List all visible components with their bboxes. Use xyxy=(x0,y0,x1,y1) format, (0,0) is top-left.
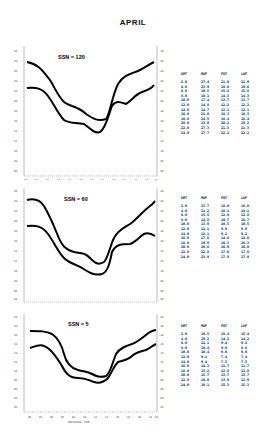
svg-text:-20: -20 xyxy=(159,325,164,328)
svg-text:06: 06 xyxy=(57,179,61,180)
x-axis-label: UNIVERSAL TIME xyxy=(68,421,90,424)
svg-text:08: 08 xyxy=(68,179,72,180)
svg-text:-12: -12 xyxy=(159,260,164,263)
svg-text:-10: -10 xyxy=(159,150,164,153)
svg-text:-20: -20 xyxy=(159,100,164,103)
ssn-label: SSN = 60 xyxy=(64,196,88,202)
svg-text:22: 22 xyxy=(145,179,149,180)
svg-text:18: 18 xyxy=(127,416,131,419)
svg-text:04: 04 xyxy=(46,179,50,180)
table-row: 24.023.917.917.9 xyxy=(181,255,261,260)
svg-text:14-: 14- xyxy=(14,130,19,133)
chart-ssn-60: 26-24-22-20- 18-16-14-12- 10-08-06-04- -… xyxy=(0,186,170,308)
svg-text:-26: -26 xyxy=(159,70,164,73)
svg-text:-22: -22 xyxy=(159,316,164,319)
svg-text:02-: 02- xyxy=(14,406,19,409)
svg-text:-08: -08 xyxy=(159,280,164,283)
svg-text:-24: -24 xyxy=(159,200,164,203)
svg-text:-06: -06 xyxy=(159,388,164,391)
svg-text:16-: 16- xyxy=(14,343,19,346)
svg-text:18-: 18- xyxy=(14,110,19,113)
svg-text:06-: 06- xyxy=(14,388,19,391)
svg-text:-16: -16 xyxy=(159,120,164,123)
svg-text:02: 02 xyxy=(35,179,39,180)
chart-ssn-120: 30-28-26-24- 22-20-18-16- 14-12-10-08-06… xyxy=(0,44,170,180)
svg-text:-16: -16 xyxy=(159,240,164,243)
svg-text:-18: -18 xyxy=(159,334,164,337)
table-header: GMTMUFFOTLUF xyxy=(181,196,261,201)
svg-text:26-: 26- xyxy=(14,70,19,73)
svg-text:-04: -04 xyxy=(159,298,164,301)
svg-text:16: 16 xyxy=(112,179,116,180)
svg-text:06-: 06- xyxy=(14,170,19,173)
svg-text:18: 18 xyxy=(123,179,127,180)
svg-text:14: 14 xyxy=(105,416,109,419)
svg-text:-08: -08 xyxy=(159,379,164,382)
svg-text:08-: 08- xyxy=(14,280,19,283)
svg-text:22-: 22- xyxy=(14,210,19,213)
svg-text:-28: -28 xyxy=(159,60,164,63)
ssn-label: SSN = 120 xyxy=(58,54,85,60)
svg-text:-26: -26 xyxy=(159,190,164,193)
svg-text:14-: 14- xyxy=(14,352,19,355)
svg-text:20: 20 xyxy=(138,416,142,419)
svg-text:12-: 12- xyxy=(14,361,19,364)
svg-text:18-: 18- xyxy=(14,230,19,233)
svg-text:-06: -06 xyxy=(159,170,164,173)
svg-text:08: 08 xyxy=(72,416,76,419)
svg-text:08-: 08- xyxy=(14,379,19,382)
svg-text:-10: -10 xyxy=(159,270,164,273)
data-table-ssn-120: GMTMUFFOTLUF 2.027.421.921.9 4.023.919.6… xyxy=(181,72,261,135)
svg-text:28-: 28- xyxy=(14,60,19,63)
page-title: APRIL xyxy=(0,18,266,27)
svg-text:00: 00 xyxy=(24,179,28,180)
data-table-ssn-5: GMTMUFFOTLUF 2.019.515.415.4 4.019.214.2… xyxy=(181,324,261,387)
svg-text:-14: -14 xyxy=(159,352,164,355)
svg-text:-18: -18 xyxy=(159,230,164,233)
svg-text:04-: 04- xyxy=(14,298,19,301)
svg-text:-06: -06 xyxy=(159,290,164,293)
svg-text:22-: 22- xyxy=(14,316,19,319)
svg-text:16: 16 xyxy=(116,416,120,419)
svg-text:22-: 22- xyxy=(14,90,19,93)
svg-text:-12: -12 xyxy=(159,140,164,143)
svg-text:-12: -12 xyxy=(159,361,164,364)
svg-text:10-: 10- xyxy=(14,150,19,153)
svg-text:12-: 12- xyxy=(14,140,19,143)
svg-text:00: 00 xyxy=(28,416,32,419)
svg-text:20-: 20- xyxy=(14,325,19,328)
svg-text:16-: 16- xyxy=(14,240,19,243)
svg-text:12: 12 xyxy=(90,179,94,180)
svg-text:-14: -14 xyxy=(159,250,164,253)
svg-text:16-: 16- xyxy=(14,120,19,123)
panel-ssn-120: 30-28-26-24- 22-20-18-16- 14-12-10-08-06… xyxy=(0,44,266,180)
svg-text:24-: 24- xyxy=(14,80,19,83)
svg-text:04: 04 xyxy=(50,416,54,419)
svg-text:10: 10 xyxy=(83,416,87,419)
panel-ssn-60: 26-24-22-20- 18-16-14-12- 10-08-06-04- -… xyxy=(0,186,266,308)
svg-text:10: 10 xyxy=(79,179,83,180)
panel-ssn-5: 22-20-18-16- 14-12-10-08- 06-04-02- -22-… xyxy=(0,312,266,442)
svg-text:-08: -08 xyxy=(159,160,164,163)
svg-text:-02: -02 xyxy=(159,406,164,409)
svg-text:12: 12 xyxy=(94,416,98,419)
svg-text:-18: -18 xyxy=(159,110,164,113)
svg-text:22: 22 xyxy=(149,416,153,419)
svg-text:06-: 06- xyxy=(14,290,19,293)
svg-text:-04: -04 xyxy=(159,397,164,400)
ssn-label: SSN = 5 xyxy=(68,321,89,327)
svg-text:20-: 20- xyxy=(14,100,19,103)
svg-text:26-: 26- xyxy=(14,190,19,193)
svg-text:24: 24 xyxy=(154,179,158,180)
svg-text:02: 02 xyxy=(39,416,43,419)
svg-text:10-: 10- xyxy=(14,370,19,373)
svg-text:18-: 18- xyxy=(14,334,19,337)
svg-text:-14: -14 xyxy=(159,130,164,133)
svg-text:-22: -22 xyxy=(159,90,164,93)
svg-text:-20: -20 xyxy=(159,220,164,223)
svg-text:10-: 10- xyxy=(14,270,19,273)
svg-text:06: 06 xyxy=(61,416,65,419)
svg-text:20-: 20- xyxy=(14,220,19,223)
table-header: GMTMUFFOTLUF xyxy=(181,324,261,329)
svg-text:20: 20 xyxy=(134,179,138,180)
